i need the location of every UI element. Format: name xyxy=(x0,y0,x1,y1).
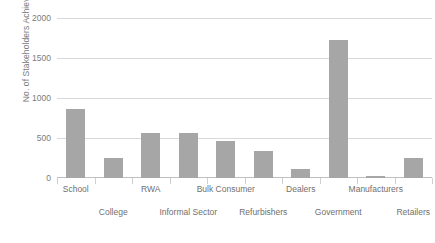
x-axis-label: RWA xyxy=(118,184,184,195)
x-axis-label: Bulk Consumer xyxy=(193,184,259,195)
bar-slot xyxy=(95,18,133,178)
x-axis-label: College xyxy=(80,207,146,218)
bar-series xyxy=(57,18,432,178)
bar xyxy=(291,169,310,178)
x-axis-label: Informal Sector xyxy=(155,207,221,218)
bar-slot xyxy=(170,18,208,178)
plot-area: 2000 1500 1000 500 0 xyxy=(57,18,432,178)
y-tick-label-1500: 1500 xyxy=(11,54,51,63)
y-tick-label-0: 0 xyxy=(11,174,51,183)
bar xyxy=(179,133,198,178)
bar-chart: No. of Stakeholders Achieved 2000 1500 1… xyxy=(0,0,435,243)
bar xyxy=(404,158,423,178)
x-axis-label: Refurbishers xyxy=(230,207,296,218)
bar-slot xyxy=(357,18,395,178)
y-tick-label-2000: 2000 xyxy=(11,14,51,23)
bar xyxy=(141,133,160,178)
bar-slot xyxy=(395,18,433,178)
y-tick-label-1000: 1000 xyxy=(11,94,51,103)
bar xyxy=(66,109,85,178)
bar-slot xyxy=(282,18,320,178)
x-axis-label: Dealers xyxy=(268,184,334,195)
x-axis-label: School xyxy=(43,184,109,195)
bar xyxy=(216,141,235,178)
x-axis-label: Manufacturers xyxy=(343,184,409,195)
bar xyxy=(254,151,273,178)
x-axis-labels: SchoolCollegeRWAInformal SectorBulk Cons… xyxy=(57,184,432,240)
bar xyxy=(329,40,348,178)
bar-slot xyxy=(320,18,358,178)
bar-slot xyxy=(132,18,170,178)
bar-slot xyxy=(245,18,283,178)
x-tick xyxy=(432,178,433,184)
bar xyxy=(104,158,123,178)
x-axis-label: Government xyxy=(305,207,371,218)
bar-slot xyxy=(207,18,245,178)
x-axis-label: Retailers xyxy=(380,207,435,218)
bar-slot xyxy=(57,18,95,178)
y-tick-label-500: 500 xyxy=(11,134,51,143)
